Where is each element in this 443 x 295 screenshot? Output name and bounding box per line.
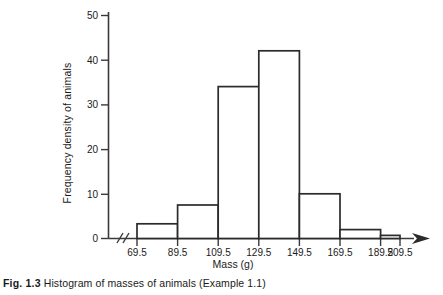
x-tick-label-69-5: 69.5 — [114, 248, 160, 258]
bar-169-5-189-5 — [340, 230, 381, 239]
y-tick-label-0: 0 — [74, 234, 98, 244]
bar-149-5-169-5 — [299, 194, 340, 239]
x-tick-label-129-5: 129.5 — [236, 248, 282, 258]
bar-189-5-209-5 — [381, 235, 400, 238]
bar-89-5-109-5 — [178, 205, 219, 239]
x-axis-title: Mass (g) — [168, 258, 298, 270]
bar-129-5-149-5 — [259, 51, 300, 239]
caption-number: Fig. 1.3 — [3, 277, 41, 289]
x-tick-label-169-5: 169.5 — [317, 248, 363, 258]
y-axis-title: Frequency density of animals — [58, 38, 76, 228]
x-tick-label-149-5: 149.5 — [276, 248, 322, 258]
x-axis-ticks — [137, 239, 400, 247]
bar-109-5-129-5 — [218, 87, 259, 239]
y-axis-ticks — [101, 16, 109, 239]
x-tick-label-109-5: 109.5 — [195, 248, 241, 258]
y-tick-label-10: 10 — [74, 190, 98, 200]
figure-container: 50 40 30 20 10 0 69.5 89.5 109.5 129.5 1… — [0, 0, 443, 295]
histogram-chart: 50 40 30 20 10 0 69.5 89.5 109.5 129.5 1… — [0, 0, 443, 268]
y-tick-label-40: 40 — [74, 56, 98, 66]
caption-text: Histogram of masses of animals (Example … — [44, 277, 266, 289]
y-axis-title-text: Frequency density of animals — [61, 63, 73, 204]
x-tick-label-209-5: 209.5 — [377, 248, 423, 258]
x-axis-arrow-icon — [412, 233, 430, 244]
x-axis-title-text: Mass (g) — [213, 258, 254, 270]
histogram-bars — [137, 51, 400, 239]
y-tick-label-20: 20 — [74, 145, 98, 155]
bar-69-5-89-5 — [137, 224, 178, 239]
y-tick-label-50: 50 — [74, 11, 98, 21]
x-tick-label-89-5: 89.5 — [155, 248, 201, 258]
y-tick-label-30: 30 — [74, 100, 98, 110]
figure-caption: Fig. 1.3 Histogram of masses of animals … — [3, 277, 439, 289]
